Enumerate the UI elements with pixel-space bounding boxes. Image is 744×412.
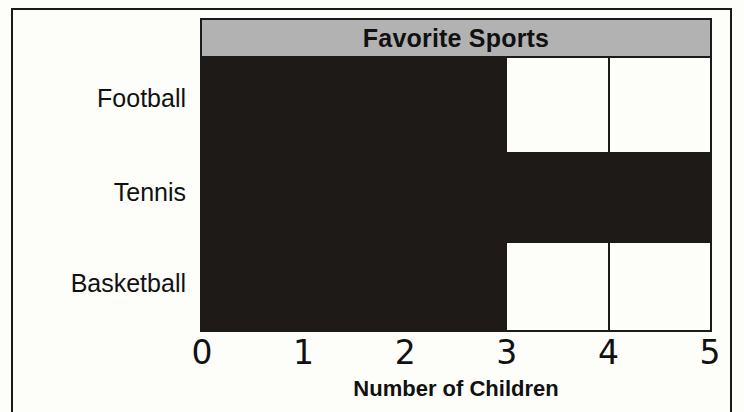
plot-area [200,58,712,332]
bar-row-tennis [202,152,710,243]
category-label-basketball: Basketball [0,271,186,296]
chart-title-bar: Favorite Sports [200,18,712,58]
bar-row-football [202,58,710,152]
xtick-5: 5 [700,336,721,369]
xtick-0: 0 [192,336,213,369]
category-axis-labels: Football Tennis Basketball [0,58,186,332]
x-axis-title: Number of Children [200,378,712,400]
xtick-4: 4 [598,336,619,369]
bar-row-basketball [202,243,710,332]
bar-tennis [202,152,710,243]
xtick-2: 2 [395,336,416,369]
category-label-tennis: Tennis [0,180,186,205]
xtick-1: 1 [293,336,314,369]
xtick-3: 3 [496,336,517,369]
bar-basketball [202,243,507,332]
bar-football [202,58,507,152]
bar-chart: Favorite Sports [200,18,712,332]
chart-title: Favorite Sports [363,26,549,51]
chart-figure: Football Tennis Basketball Favorite Spor… [0,0,744,412]
x-axis-tick-labels: 0 1 2 3 4 5 [200,336,712,374]
category-label-football: Football [0,86,186,111]
